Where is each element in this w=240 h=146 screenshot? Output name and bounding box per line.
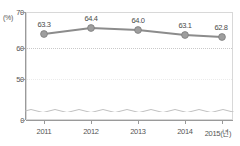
y-axis-tick-70 — [21, 12, 25, 13]
axis-break-wave — [25, 103, 234, 112]
data-label-2014: 63.1 — [179, 21, 192, 30]
x-axis-label-2011: 2011 — [37, 127, 52, 136]
data-point-marker — [219, 34, 226, 41]
data-point-marker — [182, 32, 189, 39]
y-axis-tick-0 — [21, 120, 25, 121]
x-axis-tick-2014 — [185, 120, 186, 124]
y-axis-tick-50 — [21, 79, 25, 80]
x-axis-label-2015: 2015(년) — [205, 127, 232, 138]
data-label-2013: 64.0 — [132, 16, 145, 25]
x-axis-tick-2015 — [222, 120, 223, 124]
x-axis-label-2013: 2013 — [130, 127, 146, 136]
data-point-marker — [41, 31, 48, 38]
data-label-2012: 64.4 — [85, 14, 98, 23]
x-axis-tick-2013 — [138, 120, 139, 124]
x-axis-line — [26, 120, 233, 121]
data-label-2015: 62.8 — [215, 23, 228, 32]
x-axis-tick-2012 — [91, 120, 92, 124]
x-axis-label-2012: 2012 — [83, 127, 99, 136]
y-axis-labels: 70 (%) 60 50 0 — [0, 0, 24, 146]
x-axis-label-2014: 2014 — [177, 127, 193, 136]
line-chart: 70 (%) 60 50 0 63.3 64.4 64.0 63.1 62.8 — [0, 0, 240, 146]
y-axis-tick-60 — [21, 48, 25, 49]
data-label-2011: 63.3 — [38, 20, 51, 29]
series-polyline — [44, 28, 222, 37]
y-axis-unit-label: (%) — [3, 14, 13, 21]
data-point-marker — [88, 25, 95, 32]
data-point-marker — [135, 27, 142, 34]
x-axis-tick-2011 — [44, 120, 45, 124]
